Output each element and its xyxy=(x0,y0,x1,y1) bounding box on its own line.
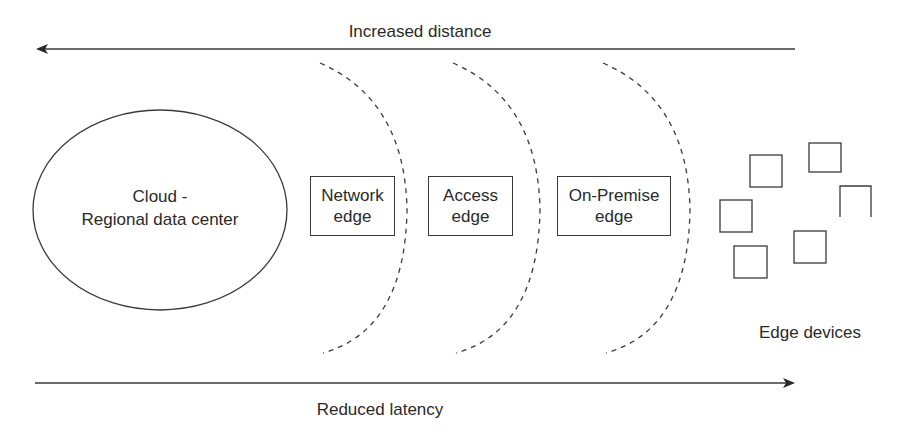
increased-distance-label: Increased distance xyxy=(300,22,540,42)
reduced-latency-label: Reduced latency xyxy=(280,400,480,420)
access-edge-line2: edge xyxy=(452,206,490,227)
edge-devices-label: Edge devices xyxy=(735,323,885,343)
edge-device-icon xyxy=(840,186,871,217)
on-premise-edge-box: On-Premise edge xyxy=(557,176,671,236)
cloud-label-line1: Cloud - xyxy=(40,185,280,208)
edge-device-icon xyxy=(720,200,752,232)
on-premise-edge-line1: On-Premise xyxy=(569,185,660,206)
edge-device-icon xyxy=(794,231,826,263)
edge-device-icon xyxy=(750,155,782,187)
cloud-regional-data-center: Cloud - Regional data center xyxy=(40,185,280,231)
access-edge-line1: Access xyxy=(443,185,498,206)
network-edge-line1: Network xyxy=(321,185,383,206)
network-edge-box: Network edge xyxy=(310,176,395,236)
edge-device-icon xyxy=(809,143,841,172)
cloud-label-line2: Regional data center xyxy=(40,208,280,231)
edge-devices-group xyxy=(720,143,871,278)
edge-device-icon xyxy=(734,246,767,278)
access-edge-box: Access edge xyxy=(428,176,513,236)
network-edge-line2: edge xyxy=(334,206,372,227)
on-premise-edge-line2: edge xyxy=(595,206,633,227)
